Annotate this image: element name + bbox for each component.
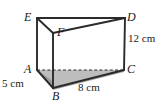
vertex-label-A: A	[24, 63, 31, 75]
edge-DC	[124, 18, 125, 70]
vertex-label-B: B	[52, 90, 59, 102]
geometry-figure: E D F A C B 12 cm 8 cm 5 cm	[0, 0, 167, 102]
dimension-label-height: 12 cm	[128, 33, 155, 44]
vertex-label-E: E	[24, 11, 31, 23]
edge-EF	[37, 18, 53, 33]
vertex-label-D: D	[127, 11, 136, 23]
vertex-label-F: F	[57, 26, 64, 38]
dimension-label-depth: 5 cm	[2, 78, 24, 89]
dimension-label-length: 8 cm	[78, 82, 100, 93]
vertex-label-C: C	[127, 63, 135, 75]
